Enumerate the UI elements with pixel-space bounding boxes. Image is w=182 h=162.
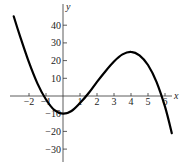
x-tick-label: 2 — [95, 96, 100, 107]
y-tick-label: 20 — [51, 55, 61, 66]
x-axis-label: x — [173, 90, 179, 101]
axes: −2−1123456 40302010−10−20−30 x y — [10, 1, 179, 162]
x-tick-label: 3 — [112, 96, 117, 107]
function-curve — [14, 16, 172, 133]
y-tick-label: 10 — [51, 73, 61, 84]
x-tick-label: −2 — [24, 96, 35, 107]
y-tick-label: 40 — [51, 20, 61, 31]
chart: −2−1123456 40302010−10−20−30 x y — [0, 0, 182, 162]
y-ticks: 40302010−10−20−30 — [45, 20, 67, 155]
y-axis-label: y — [65, 1, 71, 12]
x-tick-label: 4 — [129, 96, 134, 107]
x-tick-label: 5 — [146, 96, 151, 107]
y-tick-label: 30 — [51, 37, 61, 48]
y-tick-label: −20 — [45, 126, 61, 137]
y-tick-label: −30 — [45, 144, 61, 155]
